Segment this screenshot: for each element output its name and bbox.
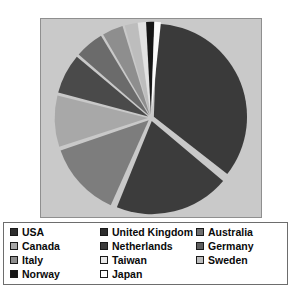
pie-chart-page: USA Canada Italy Norway Unite bbox=[0, 0, 298, 299]
legend-swatch-icon bbox=[100, 256, 108, 264]
legend-item-netherlands[interactable]: Netherlands bbox=[100, 239, 198, 253]
legend-item-italy[interactable]: Italy bbox=[10, 253, 100, 267]
legend-column-1: USA Canada Italy Norway bbox=[10, 225, 100, 281]
legend-item-label: Germany bbox=[208, 239, 254, 253]
legend-item-label: Sweden bbox=[208, 253, 248, 267]
legend-swatch-icon bbox=[100, 242, 108, 250]
chart-plot-area bbox=[40, 18, 262, 218]
legend-item-label: Netherlands bbox=[112, 239, 173, 253]
legend-item-label: United Kingdom bbox=[112, 225, 193, 239]
pie-slice-group bbox=[55, 22, 247, 214]
legend-item-sweden[interactable]: Sweden bbox=[196, 253, 288, 267]
legend-item-united-kingdom[interactable]: United Kingdom bbox=[100, 225, 198, 239]
legend-swatch-icon bbox=[100, 270, 108, 278]
legend-grid: USA Canada Italy Norway Unite bbox=[8, 225, 285, 283]
pie-chart bbox=[41, 19, 261, 217]
legend-column-2: United Kingdom Netherlands Taiwan Japan bbox=[100, 225, 198, 281]
legend-swatch-icon bbox=[10, 242, 18, 250]
legend-item-label: Norway bbox=[22, 267, 60, 281]
legend-item-label: Taiwan bbox=[112, 253, 147, 267]
legend-item-canada[interactable]: Canada bbox=[10, 239, 100, 253]
legend-swatch-icon bbox=[10, 270, 18, 278]
legend-column-3: Australia Germany Sweden bbox=[196, 225, 288, 267]
legend-item-germany[interactable]: Germany bbox=[196, 239, 288, 253]
legend-item-australia[interactable]: Australia bbox=[196, 225, 288, 239]
legend-item-label: Japan bbox=[112, 267, 142, 281]
legend-item-taiwan[interactable]: Taiwan bbox=[100, 253, 198, 267]
legend-item-usa[interactable]: USA bbox=[10, 225, 100, 239]
legend-swatch-icon bbox=[196, 256, 204, 264]
legend-item-label: Australia bbox=[208, 225, 253, 239]
legend-swatch-icon bbox=[100, 228, 108, 236]
legend-item-label: Italy bbox=[22, 253, 43, 267]
legend-swatch-icon bbox=[196, 242, 204, 250]
legend-item-label: Canada bbox=[22, 239, 60, 253]
legend: USA Canada Italy Norway Unite bbox=[3, 222, 288, 285]
legend-swatch-icon bbox=[10, 228, 18, 236]
legend-item-label: USA bbox=[22, 225, 44, 239]
pie-svg bbox=[41, 19, 261, 217]
legend-item-japan[interactable]: Japan bbox=[100, 267, 198, 281]
legend-swatch-icon bbox=[196, 228, 204, 236]
legend-swatch-icon bbox=[10, 256, 18, 264]
legend-item-norway[interactable]: Norway bbox=[10, 267, 100, 281]
